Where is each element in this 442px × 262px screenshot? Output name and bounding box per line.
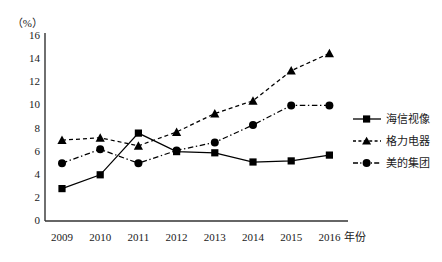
series-line-1 — [62, 53, 329, 146]
data-point-美的集团-2010 — [96, 145, 104, 153]
data-point-美的集团-2014 — [249, 121, 257, 129]
legend-item-1[interactable]: 格力电器 — [352, 134, 430, 147]
legend-label-2: 美的集团 — [386, 157, 430, 169]
legend-key-circle-dashdot — [352, 157, 382, 169]
data-point-格力电器-2013 — [210, 109, 219, 118]
data-point-格力电器-2015 — [287, 66, 296, 75]
data-point-美的集团-2013 — [211, 138, 219, 146]
data-point-海信视像-2011 — [135, 130, 142, 137]
data-point-海信视像-2014 — [249, 158, 256, 165]
legend-key-square-solid — [352, 113, 382, 125]
legend-label-1: 格力电器 — [386, 135, 430, 147]
legend-item-2[interactable]: 美的集团 — [352, 156, 430, 169]
legend-item-0[interactable]: 海信视像 — [352, 112, 430, 125]
data-point-格力电器-2011 — [134, 141, 143, 150]
series-line-2 — [62, 105, 329, 163]
line-chart: （%） 1614121086420 2009201020112012201320… — [0, 0, 442, 262]
data-point-格力电器-2016 — [325, 49, 334, 58]
axis-lines — [45, 33, 348, 221]
legend-label-0: 海信视像 — [386, 113, 430, 125]
data-point-美的集团-2016 — [325, 101, 333, 109]
chart-legend: 海信视像 格力电器 美的集团 — [352, 112, 430, 169]
data-point-海信视像-2015 — [288, 157, 295, 164]
data-point-海信视像-2013 — [211, 149, 218, 156]
data-point-美的集团-2009 — [58, 159, 66, 167]
data-point-海信视像-2016 — [326, 152, 333, 159]
data-point-美的集团-2015 — [287, 101, 295, 109]
data-series-layer — [57, 49, 334, 193]
data-point-海信视像-2009 — [58, 185, 65, 192]
data-point-格力电器-2012 — [172, 127, 181, 135]
data-point-美的集团-2012 — [173, 147, 181, 155]
series-格力电器 — [57, 49, 334, 150]
data-point-海信视像-2010 — [97, 171, 104, 178]
data-point-美的集团-2011 — [134, 159, 142, 167]
legend-key-triangle-dashed — [352, 135, 382, 147]
